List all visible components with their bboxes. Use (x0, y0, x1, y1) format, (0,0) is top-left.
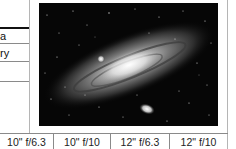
table-cell: 10" f/6.3 (0, 134, 53, 149)
right-border (227, 0, 228, 149)
row-divider (0, 61, 29, 62)
left-table-cell: a (0, 29, 29, 44)
table-cell: 10" f/10 (54, 134, 110, 149)
left-table-cell (0, 64, 29, 79)
table-cell: 12" f/10 (170, 134, 227, 149)
left-table-fragment: a ry (0, 0, 29, 133)
table-cell: 12" f/6.3 (111, 134, 169, 149)
galaxy-photo (39, 3, 218, 126)
row-divider (0, 81, 29, 82)
row-divider (0, 43, 29, 44)
aperture-focal-ratio-row: 10" f/6.3 10" f/10 12" f/6.3 12" f/10 (0, 133, 228, 149)
column-divider (29, 0, 30, 133)
document-page: a ry (0, 0, 236, 149)
left-table-cell: ry (0, 46, 29, 61)
